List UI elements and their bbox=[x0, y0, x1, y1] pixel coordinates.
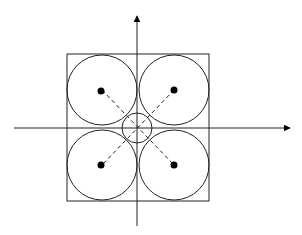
axes bbox=[14, 16, 290, 226]
dot-bottom-right bbox=[171, 162, 178, 169]
circle-packing-diagram bbox=[0, 0, 302, 235]
dot-bottom-left bbox=[98, 162, 105, 169]
dot-top-left bbox=[98, 88, 105, 95]
dot-top-right bbox=[171, 87, 178, 94]
